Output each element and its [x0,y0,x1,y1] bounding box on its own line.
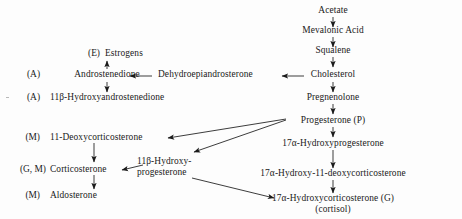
node-cortisol-note: (cortisol) [272,204,394,215]
node-progesterone: Progesterone (P) [301,115,365,126]
arrow-layer [0,0,462,219]
node-androstenedione: Androstenedione [74,69,140,80]
arrow-11b-hydroxyprogesterone-to-17a-hydroxycorticosterone [192,178,274,198]
arrow-progesterone-to-11b-hydroxyprogesterone [194,120,286,152]
node-17a-hydroxyprogesterone: 17α-Hydroxyprogesterone [282,138,383,149]
node-cholesterol: Cholesterol [311,69,355,80]
node-corticosterone: Corticosterone [50,164,107,175]
tag-estrogens: (E) [88,48,100,59]
node-17a-hydroxy-11-deoxycorticosterone: 17α-Hydroxy-11-deoxycorticosterone [260,168,405,179]
node-squalene: Squalene [315,45,350,56]
node-acetate: Acetate [318,5,347,16]
tag-deoxycorticosterone: (M) [25,132,40,143]
scan-artifact [6,97,9,98]
node-11-deoxycorticosterone: 11-Deoxycorticosterone [50,132,142,143]
node-11b-hydroxyprogesterone-line2: progesterone [137,167,187,177]
node-dehydroepiandrosterone: Dehydroepiandrosterone [158,69,253,80]
arrow-progesterone-to-deoxycorticosterone [168,119,286,138]
node-17a-hydroxycorticosterone-label: 17α-Hydroxycorticosterone (G) [272,193,394,203]
node-aldosterone: Aldosterone [50,190,97,201]
node-11b-hydroxyprogesterone: 11β-Hydroxy- progesterone [137,156,192,177]
node-17a-hydroxycorticosterone: 17α-Hydroxycorticosterone (G) (cortisol) [272,193,394,215]
tag-hydroxyandrostenedione: (A) [27,92,40,103]
tag-corticosterone: (G, M) [20,164,46,175]
node-estrogens: Estrogens [105,48,143,59]
node-11b-hydroxyprogesterone-line1: 11β-Hydroxy- [137,156,192,166]
node-mevalonic-acid: Mevalonic Acid [302,25,364,36]
tag-androstenedione: (A) [27,69,40,80]
tag-aldosterone: (M) [25,190,40,201]
node-11b-hydroxyandrostenedione: 11β-Hydroxyandrostenedione [50,92,164,103]
node-pregnenolone: Pregnenolone [307,92,360,103]
pathway-diagram: Acetate Mevalonic Acid Squalene Choleste… [0,0,462,219]
